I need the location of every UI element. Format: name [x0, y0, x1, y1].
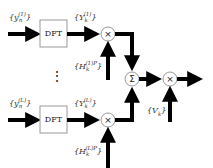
summer-symbol: Σ [125, 72, 139, 86]
branchL-to-sum [115, 94, 132, 120]
multiplier-symbol-L: × [101, 113, 115, 127]
multiplier-symbol-1: × [101, 27, 115, 41]
input-label-1: {yn(1)} [9, 12, 31, 24]
weight-label-1: {Hk(1)P} [74, 61, 102, 73]
final-weight-label: {Vk} [147, 107, 166, 117]
output-label-L: {Yk(L)} [74, 98, 97, 110]
output-label-1: {Yk(1)} [74, 12, 97, 24]
final-multiplier-symbol: × [163, 72, 177, 86]
branch1-to-sum [115, 34, 132, 64]
dft-label-1: DFT [40, 29, 67, 38]
input-label-L: {yn(L)} [9, 98, 31, 110]
ellipsis: ⋮ [50, 68, 60, 84]
weight-label-L: {Hk(L)P} [74, 146, 102, 158]
block-diagram [0, 0, 213, 168]
dft-label-L: DFT [40, 115, 67, 124]
